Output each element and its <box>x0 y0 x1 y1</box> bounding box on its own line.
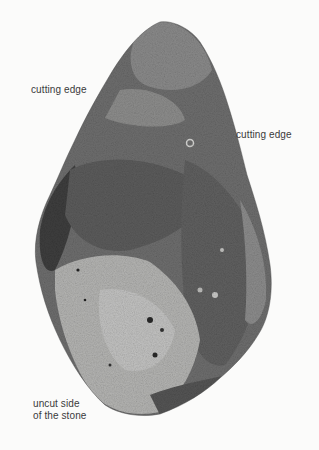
uncut-side-label: uncut side of the stone <box>33 398 86 422</box>
cutting-edge-right-label: cutting edge <box>236 129 292 141</box>
uncut-side-label-line1: uncut side <box>33 398 86 410</box>
cutting-edge-left-label: cutting edge <box>31 84 87 96</box>
hand-axe-figure: cutting edge cutting edge uncut side of … <box>0 0 319 450</box>
hand-axe-stone-image <box>0 0 319 450</box>
uncut-side-label-line2: of the stone <box>33 410 86 422</box>
